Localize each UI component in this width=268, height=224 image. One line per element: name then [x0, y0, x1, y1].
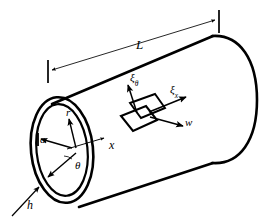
theta-ray-arrow [48, 153, 76, 177]
xi-x-base: ξ [170, 83, 175, 95]
bottom-edge-line [79, 163, 213, 207]
h-leader-arrow [12, 187, 39, 216]
surface-element [121, 94, 165, 131]
xi-theta-subscript: θ [135, 79, 139, 88]
top-edge-line [52, 36, 213, 104]
label-radius-a: a [40, 134, 46, 145]
label-angle-theta: θ [75, 160, 80, 171]
r-axis-arrow [69, 119, 76, 148]
label-displacement-w: w [185, 117, 192, 128]
far-end-arc [212, 36, 257, 163]
xi-theta-arrow [128, 85, 137, 113]
label-xi-theta: ξθ [130, 72, 138, 86]
label-axial-x: x [109, 139, 114, 151]
label-xi-x: ξx [170, 84, 178, 98]
xi-theta-base: ξ [130, 71, 135, 83]
figure-line-art [0, 0, 268, 224]
thickness-leader [12, 187, 39, 216]
cylinder-body [26, 36, 257, 207]
label-radial-r: r [66, 107, 70, 118]
label-length-L: L [136, 38, 143, 51]
element-front-face [121, 106, 157, 131]
label-thickness-h: h [27, 199, 33, 211]
xi-x-arrow [149, 97, 186, 112]
cylindrical-shell-figure: L a r θ x h w ξθ ξx [0, 0, 268, 224]
xi-x-subscript: x [175, 91, 178, 100]
